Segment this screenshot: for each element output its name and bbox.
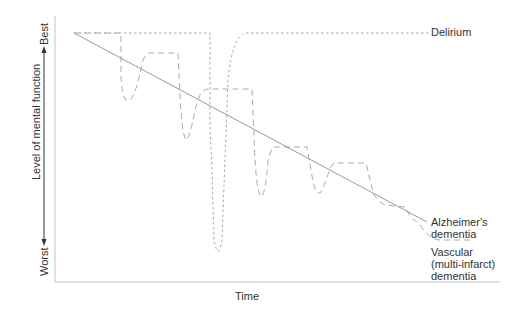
arrow-down-icon	[42, 239, 47, 246]
y-axis-label: Level of mental function	[30, 64, 42, 180]
arrow-up-icon	[42, 46, 47, 53]
legend-alzheimers-line2: dementia	[431, 228, 488, 240]
alzheimers-line	[74, 33, 427, 222]
legend-alzheimers-line1: Alzheimer's	[431, 216, 488, 228]
legend-vascular-line3: dementia	[431, 270, 495, 282]
legend-alzheimers: Alzheimer's dementia	[431, 216, 488, 240]
x-axis-label: Time	[235, 290, 259, 302]
y-axis-best-label: Best	[38, 23, 50, 45]
legend-vascular-line1: Vascular	[431, 246, 495, 258]
legend-delirium: Delirium	[431, 26, 471, 38]
legend-vascular: Vascular (multi-infarct) dementia	[431, 246, 495, 282]
y-axis-worst-label: Worst	[38, 247, 50, 276]
legend-vascular-line2: (multi-infarct)	[431, 258, 495, 270]
delirium-curve	[74, 33, 430, 251]
vascular-dementia-curve	[74, 33, 472, 240]
